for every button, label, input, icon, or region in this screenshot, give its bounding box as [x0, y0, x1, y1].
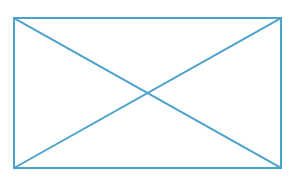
image-placeholder-graphic — [0, 0, 303, 183]
placeholder-canvas — [0, 0, 303, 183]
